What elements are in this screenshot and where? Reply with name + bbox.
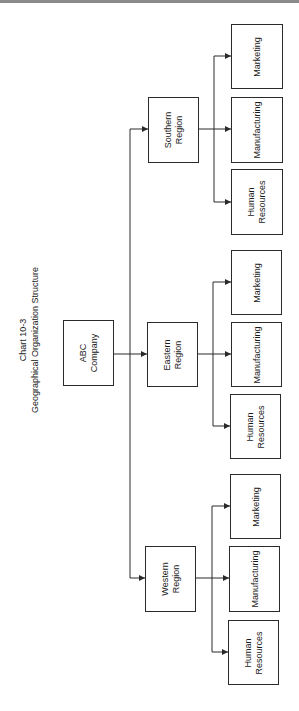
node-western-manufacturing: Manufacturing <box>229 546 280 612</box>
node-label: Eastern Region <box>162 339 184 370</box>
node-label: ABC Company <box>78 334 100 373</box>
node-label: Western Region <box>160 562 182 595</box>
node-label: Marketing <box>251 263 262 303</box>
node-label: Manufacturing <box>252 101 263 158</box>
node-label: Marketing <box>250 487 261 527</box>
node-southern-region: Southern Region <box>148 97 199 163</box>
node-label: Manufacturing <box>249 550 260 607</box>
node-southern-manufacturing: Manufacturing <box>231 97 283 163</box>
node-label: Human Resources <box>243 631 265 674</box>
node-label: Human Resources <box>245 405 267 448</box>
node-eastern-marketing: Marketing <box>231 250 282 315</box>
node-southern-human-resources: Human Resources <box>231 169 283 235</box>
node-eastern-human-resources: Human Resources <box>230 394 281 459</box>
node-southern-marketing: Marketing <box>231 24 283 89</box>
node-eastern-region: Eastern Region <box>147 322 198 387</box>
node-label: Marketing <box>252 37 263 77</box>
node-western-marketing: Marketing <box>230 474 281 539</box>
node-label: Human Resources <box>246 180 268 223</box>
node-label: Manufacturing <box>251 326 262 383</box>
node-abc-company: ABC Company <box>63 320 114 386</box>
node-western-human-resources: Human Resources <box>228 620 279 685</box>
node-eastern-manufacturing: Manufacturing <box>231 322 282 387</box>
node-label: Southern Region <box>163 112 185 149</box>
node-western-region: Western Region <box>145 546 196 612</box>
